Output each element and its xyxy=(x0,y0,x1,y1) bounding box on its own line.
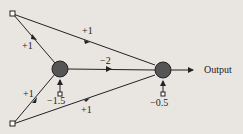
arrow-hidden-output xyxy=(106,66,112,72)
edge-in2-output xyxy=(13,75,155,124)
bias-node-output xyxy=(161,92,165,96)
hidden-neuron xyxy=(52,61,68,77)
output-label: Output xyxy=(204,64,232,75)
weight-in1-hidden: +1 xyxy=(22,40,33,51)
weight-in1-output: +1 xyxy=(82,25,93,36)
weight-in2-hidden: +1 xyxy=(23,88,34,99)
output-neuron xyxy=(155,62,171,78)
perceptron-diagram: +1 +1 +1 +1 −2 −1.5 −0.5 Output xyxy=(0,0,243,134)
bias-output-label: −0.5 xyxy=(150,97,168,108)
weight-hidden-output: −2 xyxy=(100,55,111,66)
bias-hidden-label: −1.5 xyxy=(47,95,65,106)
weight-in2-output: +1 xyxy=(81,104,92,115)
input-node-1 xyxy=(10,11,15,16)
input-node-2 xyxy=(10,121,15,126)
